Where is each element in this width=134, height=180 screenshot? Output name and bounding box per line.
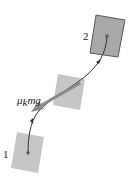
position-2-label: 2	[83, 30, 89, 42]
mg-term: mg	[27, 94, 41, 106]
diagram-canvas: 2 1 μkmg	[0, 0, 134, 180]
friction-force-label: μkmg	[16, 94, 41, 108]
block-middle	[53, 74, 85, 110]
path-arrowhead-upper	[96, 59, 101, 64]
path-arrowhead-lower	[30, 118, 33, 124]
position-1-label: 1	[3, 148, 9, 160]
